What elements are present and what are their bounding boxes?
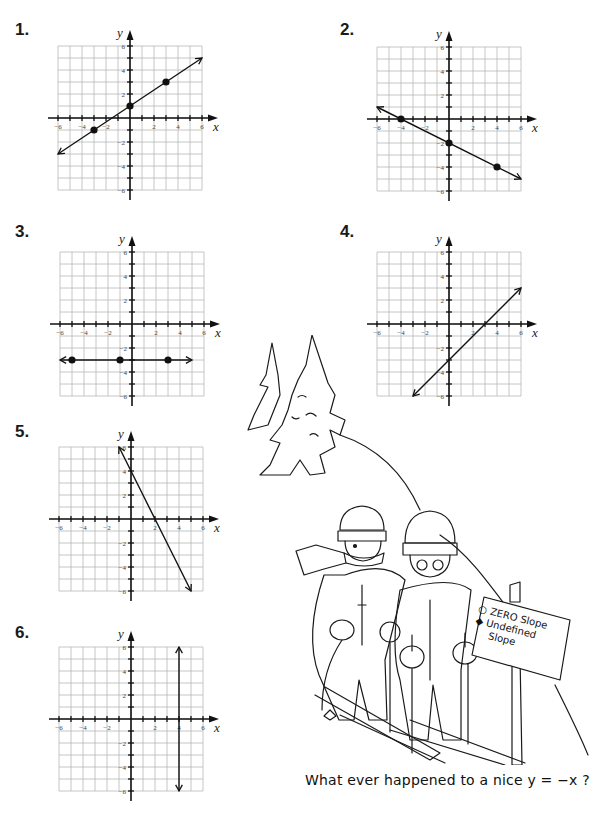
y-tick-label: −6 xyxy=(118,187,126,195)
x-tick-label: 6 xyxy=(519,124,523,132)
y-tick-label: −4 xyxy=(119,564,127,572)
y-axis-label: y xyxy=(116,626,124,641)
coordinate-plane: −6−4−2246642−2−4−6xy xyxy=(43,431,219,607)
coordinate-plane: −6−4−2246642−2−4−6xy xyxy=(42,30,218,206)
y-tick-label: −4 xyxy=(437,164,445,172)
y-tick-label: 2 xyxy=(441,297,445,305)
cartoon-caption: What ever happened to a nice y = −x ? xyxy=(305,772,590,788)
x-tick-label: 4 xyxy=(177,524,181,532)
y-tick-label: −2 xyxy=(120,345,128,353)
y-tick-label: −4 xyxy=(118,163,126,171)
coordinate-plane: −6−4−2246642−2−4−6xy xyxy=(361,31,537,207)
x-axis-label: x xyxy=(212,119,219,134)
graph-5: −6−4−2246642−2−4−6xy xyxy=(43,431,219,607)
problem-4-label: 4. xyxy=(340,222,354,242)
plotted-point xyxy=(162,78,169,85)
tick-labels: −6−4−2246642−2−4−6xy xyxy=(55,426,220,596)
y-tick-label: −2 xyxy=(119,740,127,748)
axes xyxy=(367,31,537,201)
x-tick-label: −2 xyxy=(103,524,111,532)
x-tick-label: 6 xyxy=(202,329,206,337)
problem-5-label: 5. xyxy=(15,422,29,442)
y-tick-label: 4 xyxy=(441,68,445,76)
y-axis-arrow-icon xyxy=(446,31,453,41)
y-tick-label: 2 xyxy=(124,297,128,305)
y-tick-label: −2 xyxy=(119,540,127,548)
x-tick-label: 2 xyxy=(153,724,157,732)
plotted-point xyxy=(445,139,452,146)
y-tick-label: 6 xyxy=(124,249,128,257)
problem-1-label: 1. xyxy=(15,20,29,40)
graph-2: −6−4−2246642−2−4−6xy xyxy=(361,31,537,207)
x-tick-label: −6 xyxy=(56,329,64,337)
x-tick-label: 6 xyxy=(200,123,204,131)
plotted-point xyxy=(116,356,123,363)
x-tick-label: 2 xyxy=(471,124,475,132)
plotted-point xyxy=(126,102,133,109)
x-tick-label: −4 xyxy=(397,124,405,132)
x-tick-label: −6 xyxy=(373,124,381,132)
y-tick-label: 2 xyxy=(441,92,445,100)
x-tick-label: −2 xyxy=(103,724,111,732)
x-tick-label: −4 xyxy=(79,724,87,732)
x-axis-label: x xyxy=(213,720,220,735)
x-tick-label: −6 xyxy=(55,524,63,532)
x-axis-label: x xyxy=(531,120,538,135)
x-tick-label: 2 xyxy=(154,329,158,337)
y-axis-label: y xyxy=(117,231,125,246)
x-tick-label: −6 xyxy=(55,724,63,732)
coordinate-plane: −6−4−2246642−2−4−6xy xyxy=(44,236,220,412)
y-tick-label: −4 xyxy=(119,764,127,772)
y-axis-arrow-icon xyxy=(128,631,135,641)
problem-2-label: 2. xyxy=(340,20,354,40)
y-tick-label: 4 xyxy=(123,668,127,676)
y-axis-label: y xyxy=(116,426,124,441)
y-tick-label: 4 xyxy=(441,273,445,281)
x-tick-label: −4 xyxy=(79,524,87,532)
y-axis-label: y xyxy=(434,26,442,41)
y-tick-label: −6 xyxy=(119,788,127,796)
cropped-header-strip xyxy=(0,0,591,6)
y-tick-label: 6 xyxy=(123,644,127,652)
y-axis-arrow-icon xyxy=(129,236,136,246)
x-tick-label: −4 xyxy=(78,123,86,131)
y-tick-label: −6 xyxy=(120,393,128,401)
x-tick-label: 6 xyxy=(201,524,205,532)
skiers-cartoon: ○ ZERO Slope ◆ Undefined Slope xyxy=(240,335,590,765)
tick-labels: −6−4−2246642−2−4−6xy xyxy=(373,26,538,196)
y-axis-label: y xyxy=(434,231,442,246)
x-axis-label: x xyxy=(213,520,220,535)
plotted-point xyxy=(90,126,97,133)
y-axis-label: y xyxy=(115,25,123,40)
y-tick-label: 6 xyxy=(122,43,126,51)
x-tick-label: 2 xyxy=(152,123,156,131)
tick-labels: −6−4−2246642−2−4−6xy xyxy=(56,231,221,401)
y-axis-arrow-icon xyxy=(128,431,135,441)
x-tick-label: 4 xyxy=(176,123,180,131)
axes xyxy=(50,236,220,406)
y-tick-label: −6 xyxy=(119,588,127,596)
y-tick-label: 2 xyxy=(123,492,127,500)
graph-6: −6−4−2246642−2−4−6xy xyxy=(43,631,219,807)
y-tick-label: −6 xyxy=(437,188,445,196)
y-tick-label: 4 xyxy=(124,273,128,281)
y-axis-arrow-icon xyxy=(127,30,134,40)
x-tick-label: −4 xyxy=(80,329,88,337)
y-tick-label: −4 xyxy=(120,369,128,377)
y-tick-label: 6 xyxy=(441,249,445,257)
graph-1: −6−4−2246642−2−4−6xy xyxy=(42,30,218,206)
x-tick-label: −2 xyxy=(104,329,112,337)
coordinate-plane: −6−4−2246642−2−4−6xy xyxy=(43,631,219,807)
y-axis-arrow-icon xyxy=(446,236,453,246)
plotted-point xyxy=(68,356,75,363)
plotted-point xyxy=(164,356,171,363)
x-tick-label: 4 xyxy=(178,329,182,337)
axes xyxy=(49,431,219,601)
x-tick-label: 6 xyxy=(201,724,205,732)
axes xyxy=(49,631,219,801)
problem-6-label: 6. xyxy=(15,623,29,643)
x-tick-label: 4 xyxy=(495,124,499,132)
plotted-point xyxy=(397,115,404,122)
graph-3: −6−4−2246642−2−4−6xy xyxy=(44,236,220,412)
x-axis-label: x xyxy=(214,325,221,340)
